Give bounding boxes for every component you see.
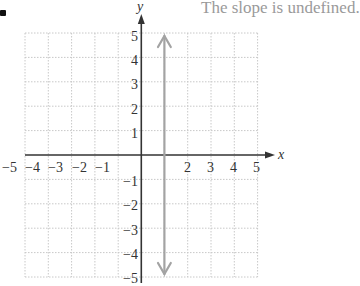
- y-tick: −3: [123, 223, 138, 238]
- x-tick: −1: [95, 160, 110, 175]
- y-tick: −4: [123, 247, 138, 262]
- y-tick: −2: [123, 198, 138, 213]
- x-tick: 5: [253, 160, 260, 175]
- y-tick: 4: [131, 53, 138, 68]
- x-tick: −3: [48, 160, 63, 175]
- y-axis-label: y: [135, 0, 144, 14]
- y-tick: 5: [131, 29, 138, 44]
- x-tick: −4: [25, 160, 40, 175]
- x-axis: x: [25, 147, 285, 162]
- x-tick: −2: [72, 160, 87, 175]
- y-tick: 2: [131, 102, 138, 117]
- y-axis-arrow-icon: [138, 14, 145, 24]
- y-tick: 1: [131, 126, 138, 141]
- y-tick-labels: 5 4 3 2 1 −1 −2 −3 −4 −5: [123, 29, 138, 286]
- x-tick-labels: −5 −4 −3 −2 −1 2 3 4 5: [2, 160, 260, 175]
- x-tick: 4: [230, 160, 237, 175]
- x-tick: 3: [207, 160, 214, 175]
- y-tick: −1: [123, 174, 138, 189]
- x-tick: 2: [184, 160, 191, 175]
- y-tick: −5: [123, 271, 138, 286]
- x-axis-arrow-icon: [265, 152, 275, 159]
- x-tick: −5: [2, 160, 17, 175]
- y-tick: 3: [131, 77, 138, 92]
- x-axis-label: x: [277, 147, 285, 162]
